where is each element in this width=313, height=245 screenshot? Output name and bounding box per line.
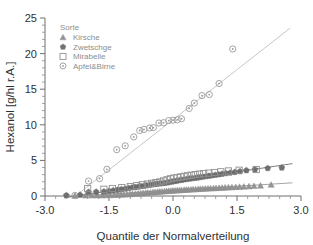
data-point-circle-center: [181, 118, 183, 120]
legend-label-3: Apfel&Birne: [73, 62, 116, 71]
data-point-circle-center: [88, 180, 90, 182]
y-tick-label: 0: [31, 190, 37, 202]
x-tick-label: -3.0: [36, 204, 55, 216]
data-point-circle-center: [143, 129, 145, 131]
data-point-pentagon: [265, 165, 271, 171]
legend-label-2: Mirabelle: [73, 52, 106, 61]
x-tick-label: 0.0: [165, 204, 180, 216]
plot-canvas: -3.0-1.50.01.53.00510152025Quantile der …: [0, 0, 313, 245]
data-point-circle-center: [208, 94, 210, 96]
data-point-pentagon: [63, 192, 69, 198]
data-point-circle-center: [218, 83, 220, 85]
data-point-pentagon: [60, 44, 66, 49]
y-tick-label: 5: [31, 154, 37, 166]
legend-label-0: Kirsche: [73, 33, 100, 42]
data-point-circle-center: [106, 168, 108, 170]
data-point-circle-center: [139, 130, 141, 132]
legend-label-1: Zwetschge: [73, 43, 112, 52]
data-point-circle-center: [152, 127, 154, 129]
legend-title: Sorte: [60, 23, 80, 32]
data-point-triangle: [257, 183, 263, 189]
data-point-square: [60, 53, 66, 59]
y-tick-label: 25: [25, 12, 37, 24]
data-point-pentagon: [232, 169, 238, 175]
data-point-pentagon: [93, 189, 99, 195]
y-tick-label: 20: [25, 48, 37, 60]
data-point-circle-center: [201, 95, 203, 97]
qq-plot-chart: -3.0-1.50.01.53.00510152025Quantile der …: [0, 0, 313, 245]
data-point-circle-center: [232, 48, 234, 50]
data-point-circle-center: [99, 178, 101, 180]
y-tick-label: 10: [25, 119, 37, 131]
data-point-circle-center: [168, 120, 170, 122]
data-point-circle-center: [74, 195, 76, 197]
data-point-circle-center: [62, 65, 64, 67]
y-axis-title: Hexanol [g/hl r.A.]: [4, 62, 16, 153]
data-point-circle-center: [172, 119, 174, 121]
data-point-triangle: [60, 34, 66, 39]
data-point-circle-center: [133, 136, 135, 138]
x-tick-label: 3.0: [293, 204, 308, 216]
data-point-circle-center: [116, 149, 118, 151]
data-point-circle-center: [188, 108, 190, 110]
data-point-circle-center: [124, 145, 126, 147]
y-tick-label: 15: [25, 83, 37, 95]
data-point-circle-center: [158, 122, 160, 124]
data-point-pentagon: [101, 188, 107, 194]
data-point-pentagon: [243, 167, 249, 173]
data-point-circle-center: [163, 122, 165, 124]
x-tick-label: -1.5: [100, 204, 119, 216]
data-point-circle-center: [193, 102, 195, 104]
x-tick-label: 1.5: [229, 204, 244, 216]
x-axis-title: Quantile der Normalverteilung: [97, 230, 250, 242]
data-point-circle-center: [176, 119, 178, 121]
